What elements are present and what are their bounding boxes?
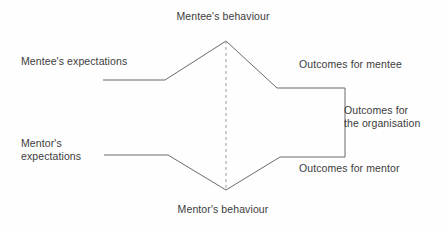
label-mentee-expectations: Mentee's expectations <box>21 55 127 68</box>
label-outcomes-for-organisation: Outcomes for the organisation <box>344 104 420 130</box>
label-mentor-expectations: Mentor's expectations <box>21 137 81 163</box>
label-outcomes-for-mentee: Outcomes for mentee <box>299 58 402 71</box>
label-mentee-behaviour: Mentee's behaviour <box>0 10 446 23</box>
label-mentor-behaviour: Mentor's behaviour <box>0 203 446 216</box>
label-outcomes-for-mentor: Outcomes for mentor <box>299 162 400 175</box>
lower-left-input-line <box>104 155 226 190</box>
diagram-canvas: Mentee's behaviour Mentee's expectations… <box>0 0 446 229</box>
